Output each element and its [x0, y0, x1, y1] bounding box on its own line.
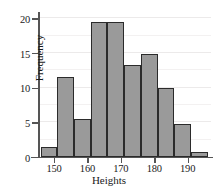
bar-156-161	[74, 119, 91, 157]
x-tick-label-150: 150	[46, 163, 61, 174]
gridline-y-15	[39, 52, 211, 53]
x-tick-label-180: 180	[147, 163, 162, 174]
y-tick-label-0: 0	[25, 152, 30, 163]
gridline-minor-17.5	[39, 35, 211, 36]
x-tick-label-170: 170	[113, 163, 128, 174]
bar-171-176	[124, 65, 141, 157]
y-tick-label-15: 15	[20, 48, 30, 59]
bar-181-186	[158, 88, 175, 157]
histogram-chart: 05101520 150160170180190 Heights Frequen…	[0, 0, 218, 190]
y-tick-label-20: 20	[20, 13, 30, 24]
bar-146-151	[41, 147, 58, 157]
x-tick-label-190: 190	[180, 163, 195, 174]
bar-161-166	[91, 22, 108, 157]
y-axis-title: Frequency	[33, 13, 45, 103]
x-axis-title: Heights	[0, 174, 218, 186]
gridline-y-20	[39, 17, 211, 18]
y-tick-label-10: 10	[20, 83, 30, 94]
y-tick-mark-5	[32, 122, 38, 123]
bar-176-181	[141, 54, 158, 157]
bar-166-171	[107, 22, 124, 157]
y-tick-0: 0	[32, 157, 38, 158]
y-tick-5: 5	[32, 122, 38, 123]
y-tick-mark-0	[32, 157, 38, 158]
bar-186-191	[174, 124, 191, 157]
bar-151-156	[57, 77, 74, 157]
x-tick-label-160: 160	[80, 163, 95, 174]
plot-area	[39, 14, 211, 157]
y-tick-label-5: 5	[25, 117, 30, 128]
